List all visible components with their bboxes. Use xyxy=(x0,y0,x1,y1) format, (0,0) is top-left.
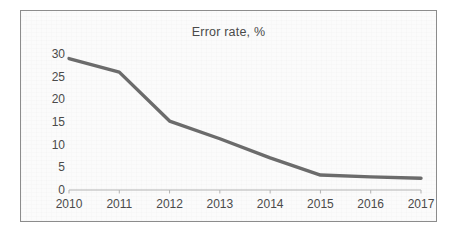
x-tick-label: 2013 xyxy=(206,197,233,211)
x-tick-label: 2016 xyxy=(357,197,384,211)
x-tick-label: 2010 xyxy=(56,197,83,211)
x-tick-label: 2011 xyxy=(106,197,132,211)
x-tick-label: 2012 xyxy=(156,197,183,211)
x-axis: 20102011201220132014201520162017 xyxy=(21,11,437,222)
x-tick-label: 2017 xyxy=(408,197,435,211)
x-tick-label: 2014 xyxy=(257,197,284,211)
plot-area: 051015202530 201020112012201320142015201… xyxy=(21,11,437,222)
chart-container: Error rate, % 051015202530 2010201120122… xyxy=(20,10,437,222)
x-tick-label: 2015 xyxy=(307,197,334,211)
